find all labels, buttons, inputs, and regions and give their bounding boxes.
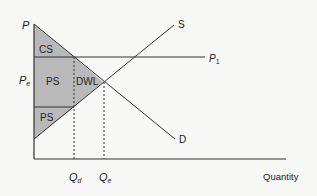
ps-upper-label: PS <box>46 76 60 87</box>
pe-label: Pe <box>19 74 30 87</box>
cs-label: CS <box>39 44 53 55</box>
supply-label: S <box>178 19 185 30</box>
dwl-label: DWL <box>76 76 99 87</box>
p1-label: P1 <box>209 53 220 65</box>
qe-label: Qe <box>99 171 112 184</box>
demand-label: D <box>179 134 186 145</box>
qd-label: Qd <box>69 171 83 184</box>
x-axis-label: Quantity <box>263 171 299 182</box>
ps-lower-label: PS <box>40 112 54 123</box>
welfare-diagram: P Quantity S D P1 Pe Qd Qe CS PS PS DWL <box>0 0 317 196</box>
y-axis-label: P <box>22 19 30 31</box>
